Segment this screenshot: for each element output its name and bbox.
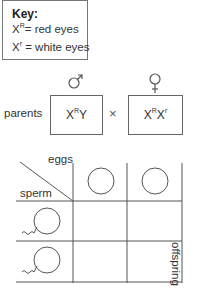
diagram-graphics [0, 0, 197, 288]
punnett-grid [16, 162, 182, 283]
male-genotype: XRY [66, 108, 87, 122]
male-symbol-icon [69, 75, 82, 88]
sperm-icon-1 [22, 208, 60, 235]
sperm-label: sperm [20, 187, 52, 199]
female-genotype: XRXr [144, 108, 167, 122]
female-parent-box: XRXr [128, 95, 183, 135]
offspring-label: offspring [170, 242, 182, 286]
egg-icon-2 [142, 168, 168, 194]
parents-label: parents [4, 107, 42, 119]
male-parent-box: XRY [50, 95, 103, 135]
sperm-icon-2 [22, 247, 60, 274]
cross-symbol: × [109, 106, 117, 121]
eggs-label: eggs [48, 153, 73, 165]
egg-icon-1 [88, 168, 114, 194]
female-symbol-icon [150, 74, 160, 93]
